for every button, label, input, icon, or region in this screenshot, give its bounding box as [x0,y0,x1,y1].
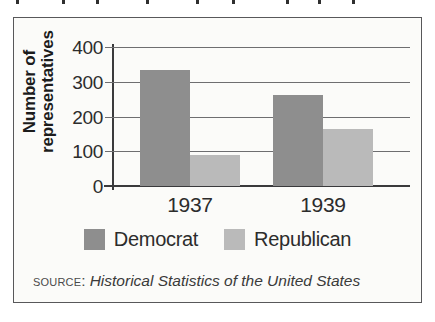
y-tick-label-200: 200 [57,107,103,129]
source-label: Source: [33,272,86,289]
legend-label-democrat: Democrat [114,228,198,251]
bar-1939-republican [323,129,373,186]
legend-label-republican: Republican [254,228,351,251]
bar-1937-republican [190,155,240,186]
y-tick-label-300: 300 [57,72,103,94]
gridline-400 [113,47,410,48]
source-title: Historical Statistics of the United Stat… [90,272,361,289]
x-category-label-1939: 1939 [283,193,363,217]
y-tick-label-100: 100 [57,141,103,163]
legend-entry-republican: Republican [224,228,351,251]
legend-entry-democrat: Democrat [84,228,198,251]
legend-swatch-democrat [84,229,105,250]
chart-legend: Democrat Republican [0,228,435,251]
y-axis-title-text: Number ofrepresentatives [20,30,57,153]
bar-1937-democrat [140,70,190,186]
y-tick-label-0: 0 [57,176,103,198]
bar-1939-democrat [273,95,323,186]
plot-area [113,47,410,186]
y-tick-label-400: 400 [57,37,103,59]
source-line: Source: Historical Statistics of the Uni… [33,272,360,290]
x-category-label-1937: 1937 [150,193,230,217]
legend-swatch-republican [224,229,245,250]
y-axis-title: Number ofrepresentatives [21,12,56,172]
